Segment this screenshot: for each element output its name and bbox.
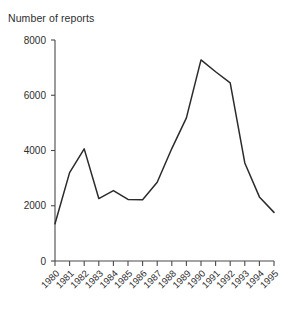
data-series-line: [55, 60, 274, 224]
y-axis-tick-label: 4000: [24, 145, 47, 156]
x-axis-tick-labels: 1980198119821983198419851986198719881989…: [39, 268, 281, 291]
y-axis-tick-marks: [51, 40, 55, 261]
y-axis-tick-label: 0: [40, 256, 46, 267]
line-chart: Number of reports 02000400060008000 1980…: [0, 0, 301, 312]
y-axis-tick-labels: 02000400060008000: [24, 35, 47, 267]
y-axis-tick-label: 6000: [24, 90, 47, 101]
x-axis-tick-marks: [55, 261, 274, 266]
y-axis-tick-label: 8000: [24, 35, 47, 46]
y-axis-tick-label: 2000: [24, 200, 47, 211]
chart-plot-area: 02000400060008000 1980198119821983198419…: [0, 0, 301, 312]
